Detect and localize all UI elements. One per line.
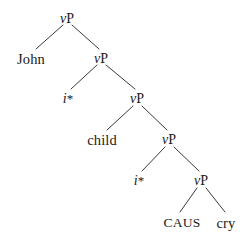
branch-vp3-vp4 <box>142 106 167 130</box>
branch-vp1-john <box>36 25 63 49</box>
branch-vp2-istar1 <box>71 65 97 89</box>
branch-vp5-cry <box>206 188 225 212</box>
asterisk-icon: * <box>138 173 145 188</box>
tree-branch-layer <box>0 0 251 242</box>
node-vp-level-2: vP <box>94 52 108 66</box>
node-vp-level-1: vP <box>60 12 74 26</box>
vp-label-p-roman: P <box>100 51 108 66</box>
asterisk-icon: * <box>67 91 74 106</box>
branch-vp3-child <box>107 106 133 130</box>
branch-vp2-vp3 <box>106 65 135 89</box>
branch-vp4-istar2 <box>142 147 165 171</box>
branch-vp4-vp5 <box>174 147 199 171</box>
node-cry: cry <box>217 216 236 230</box>
vp-label-p-roman: P <box>168 132 176 147</box>
node-i-star-1: i* <box>63 92 74 106</box>
node-vp-level-3: vP <box>130 92 144 106</box>
vp-label-p-roman: P <box>136 91 144 106</box>
vp-label-p-roman: P <box>66 11 74 26</box>
node-caus: CAUS <box>163 216 200 230</box>
node-i-star-2: i* <box>134 174 145 188</box>
syntax-tree-figure: vP John vP i* vP child vP i* vP CAUS cry <box>0 0 251 242</box>
vp-label-p-roman: P <box>200 173 208 188</box>
node-john: John <box>17 52 45 66</box>
branch-vp5-caus <box>180 188 197 212</box>
node-vp-level-4: vP <box>162 133 176 147</box>
node-vp-level-5: vP <box>194 174 208 188</box>
branch-vp1-vp2 <box>72 25 99 49</box>
node-child: child <box>87 133 117 147</box>
